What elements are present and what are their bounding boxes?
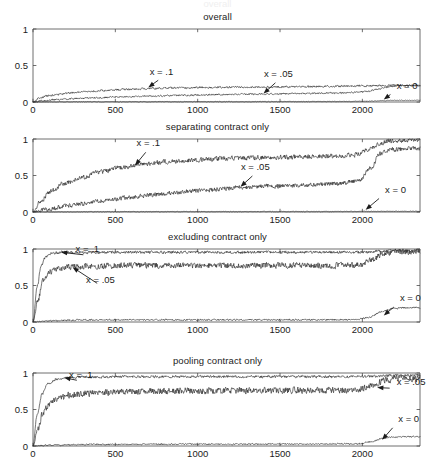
annotation-label: x = .1 <box>76 243 100 254</box>
series-line <box>33 139 420 212</box>
y-tick-label: 0 <box>23 441 28 452</box>
chart-panel: separating contract only0500100015002000… <box>0 0 435 469</box>
x-tick-label: 500 <box>107 448 123 459</box>
panel-title: overall <box>0 11 435 22</box>
series-line <box>33 436 420 446</box>
series-line <box>33 85 420 102</box>
series-line <box>33 211 420 212</box>
annotation-label: x = .05 <box>264 68 293 79</box>
series-annotation: x = .05 <box>264 68 293 94</box>
y-tick-label: 0 <box>23 207 28 218</box>
panel-title: excluding contract only <box>0 231 435 242</box>
annotation-label: x = .05 <box>86 274 115 285</box>
y-tick-label: 0 <box>23 97 28 108</box>
plot-area: 050010001500200000.51x = .1x = .05x = 0 <box>0 0 435 469</box>
chart-panel: pooling contract only050010001500200000.… <box>0 0 435 469</box>
series-annotation: x = 0 <box>384 80 418 99</box>
y-tick-label: 1 <box>23 134 28 145</box>
series-line <box>33 374 420 446</box>
figure-canvas: overall overall050010001500200000.51x = … <box>0 0 435 469</box>
x-tick-label: 0 <box>30 324 35 335</box>
x-tick-label: 0 <box>30 448 35 459</box>
panel-title: separating contract only <box>0 121 435 132</box>
series-line <box>33 84 420 102</box>
y-tick-label: 1 <box>23 244 28 255</box>
x-tick-label: 1500 <box>269 214 290 225</box>
series-annotation: x = 0 <box>384 292 421 315</box>
y-tick-label: 0.5 <box>15 170 28 181</box>
x-tick-label: 0 <box>30 214 35 225</box>
y-tick-label: 0.5 <box>15 280 28 291</box>
x-tick-label: 1500 <box>269 448 290 459</box>
annotation-label: x = .1 <box>137 137 161 148</box>
annotation-label: x = 0 <box>400 292 421 303</box>
x-tick-label: 2000 <box>352 324 373 335</box>
x-tick-label: 1000 <box>187 448 208 459</box>
x-tick-label: 500 <box>107 104 123 115</box>
annotation-label: x = 0 <box>385 184 406 195</box>
x-tick-label: 1000 <box>187 104 208 115</box>
series-line <box>33 375 420 446</box>
series-line <box>33 307 420 322</box>
series-annotation: x = .1 <box>64 369 92 381</box>
x-tick-label: 2000 <box>352 104 373 115</box>
series-line <box>33 100 420 102</box>
series-annotation: x = 0 <box>382 413 419 440</box>
series-annotation: x = .05 <box>377 376 425 390</box>
y-tick-label: 1 <box>23 368 28 379</box>
annotation-label: x = .05 <box>241 161 270 172</box>
plot-area: 050010001500200000.51x = .1x = .05x = 0 <box>0 0 435 469</box>
series-annotation: x = .1 <box>61 243 99 255</box>
y-tick-label: 0.5 <box>15 404 28 415</box>
series-annotation: x = .05 <box>241 161 270 187</box>
x-tick-label: 1500 <box>269 104 290 115</box>
chart-panel: excluding contract only05001000150020000… <box>0 0 435 469</box>
annotation-label: x = .1 <box>69 369 93 380</box>
panel-title: pooling contract only <box>0 355 435 366</box>
annotation-label: x = .1 <box>150 66 174 77</box>
series-annotation: x = .1 <box>135 137 160 165</box>
x-tick-label: 1000 <box>187 324 208 335</box>
series-annotation: x = 0 <box>366 184 406 210</box>
y-tick-label: 1 <box>23 24 28 35</box>
x-tick-label: 1500 <box>269 324 290 335</box>
x-tick-label: 2000 <box>352 214 373 225</box>
plot-area: 050010001500200000.51x = .1x = .05x = 0 <box>0 0 435 469</box>
series-line <box>33 249 420 322</box>
x-tick-label: 1000 <box>187 214 208 225</box>
x-tick-label: 2000 <box>352 448 373 459</box>
annotation-label: x = 0 <box>397 80 418 91</box>
series-line <box>33 249 420 322</box>
plot-area: 050010001500200000.51x = .1x = .05x = 0 <box>0 0 435 469</box>
annotation-label: x = 0 <box>398 413 419 424</box>
x-tick-label: 500 <box>107 214 123 225</box>
y-tick-label: 0 <box>23 317 28 328</box>
annotation-label: x = .05 <box>397 376 426 387</box>
chart-panel: overall050010001500200000.51x = .1x = .0… <box>0 0 435 469</box>
x-tick-label: 0 <box>30 104 35 115</box>
cropped-top-title: overall <box>0 0 435 9</box>
y-tick-label: 0.5 <box>15 60 28 71</box>
series-annotation: x = .1 <box>148 66 173 87</box>
x-tick-label: 500 <box>107 324 123 335</box>
series-line <box>33 146 420 212</box>
series-annotation: x = .05 <box>73 267 115 284</box>
